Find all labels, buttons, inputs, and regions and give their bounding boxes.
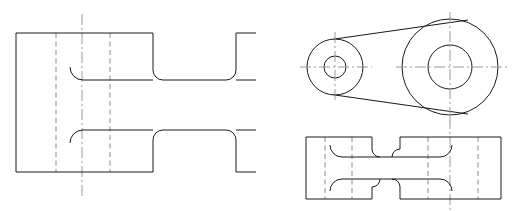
lower-tangent-web xyxy=(334,95,469,114)
side-web-lower-right xyxy=(392,179,452,191)
side-hidden-edges xyxy=(325,137,478,199)
drawing-sheet xyxy=(0,0,512,211)
front-lower-outline xyxy=(16,130,256,172)
side-web-upper-right xyxy=(392,145,452,157)
side-outer-profile xyxy=(306,137,501,199)
top-plan-view xyxy=(300,12,508,122)
engineering-drawing-canvas xyxy=(0,0,512,211)
side-section-view xyxy=(306,118,501,210)
front-hidden-edges xyxy=(56,33,110,172)
front-section-view xyxy=(16,14,256,196)
front-upper-outline xyxy=(16,33,256,80)
upper-tangent-web xyxy=(334,20,469,39)
